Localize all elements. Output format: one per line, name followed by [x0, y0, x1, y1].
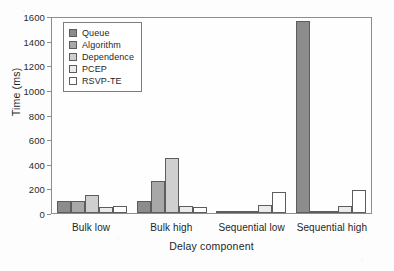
legend-item: Algorithm: [69, 39, 134, 51]
x-tick-label: Bulk high: [131, 214, 211, 236]
bar-dependence: [244, 211, 258, 213]
legend-swatch-icon: [69, 77, 77, 85]
bar-pcep: [338, 206, 352, 213]
bar-rsvp-te: [193, 207, 207, 213]
x-tick-label: Sequential high: [292, 214, 372, 236]
legend-swatch-icon: [69, 53, 77, 61]
bar-group: [291, 18, 371, 213]
legend-label: Algorithm: [82, 40, 121, 50]
legend-swatch-icon: [69, 41, 77, 49]
bar-rsvp-te: [352, 190, 366, 213]
legend-item: Dependence: [69, 51, 134, 63]
bar-dependence: [85, 195, 99, 213]
legend-item: PCEP: [69, 63, 134, 75]
bar-dependence: [324, 211, 338, 213]
bar-dependence: [165, 158, 179, 213]
bar-rsvp-te: [272, 192, 286, 213]
y-axis-ticks: 02004006008001000120014001600: [0, 17, 51, 214]
bar-group: [132, 18, 212, 213]
legend-label: Dependence: [82, 52, 134, 62]
y-tick-label: 800: [29, 110, 45, 121]
y-tick-label: 1000: [23, 85, 45, 96]
legend-label: RSVP-TE: [82, 76, 122, 86]
legend-swatch-icon: [69, 29, 77, 37]
bar-pcep: [99, 207, 113, 213]
y-tick-label: 1400: [23, 36, 45, 47]
y-tick-label: 1200: [23, 61, 45, 72]
bar-algorithm: [310, 211, 324, 213]
y-tick-label: 400: [29, 159, 45, 170]
x-axis-label: Delay component: [51, 240, 372, 252]
x-tick-label: Bulk low: [51, 214, 131, 236]
bar-algorithm: [71, 201, 85, 213]
legend-item: Queue: [69, 27, 134, 39]
bar-algorithm: [230, 211, 244, 213]
bar-queue: [137, 201, 151, 213]
bar-rsvp-te: [113, 206, 127, 213]
bar-queue: [57, 201, 71, 213]
x-axis-ticks: Bulk lowBulk highSequential lowSequentia…: [51, 214, 372, 236]
y-tick-label: 0: [40, 209, 45, 220]
y-tick-label: 1600: [23, 12, 45, 23]
x-tick-label: Sequential low: [212, 214, 292, 236]
legend-item: RSVP-TE: [69, 75, 134, 87]
bar-group: [212, 18, 292, 213]
bar-pcep: [258, 205, 272, 213]
legend-swatch-icon: [69, 65, 77, 73]
bar-algorithm: [151, 181, 165, 213]
bar-queue: [216, 211, 230, 213]
bar-queue: [296, 21, 310, 213]
y-tick-label: 200: [29, 184, 45, 195]
legend-label: Queue: [82, 28, 110, 38]
figure: Time (ms) 02004006008001000120014001600 …: [0, 0, 394, 271]
y-tick-label: 600: [29, 135, 45, 146]
legend-label: PCEP: [82, 64, 107, 74]
bar-pcep: [179, 206, 193, 213]
legend: QueueAlgorithmDependencePCEPRSVP-TE: [63, 22, 142, 92]
